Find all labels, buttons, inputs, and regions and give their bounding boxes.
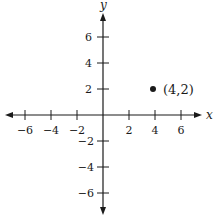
x-tick-label: −4 — [43, 124, 59, 137]
y-tick-label: 4 — [85, 57, 92, 70]
x-tick-label: 4 — [152, 124, 159, 137]
y-axis: y — [99, 0, 107, 215]
y-axis-down-arrow-icon — [100, 207, 106, 215]
y-tick-label: −4 — [78, 161, 94, 174]
x-axis: x — [5, 108, 213, 122]
point-dot-icon — [150, 86, 156, 92]
y-axis-up-arrow-icon — [100, 13, 106, 21]
x-tick-label: −6 — [17, 124, 33, 137]
y-axis-label: y — [99, 0, 107, 12]
y-tick-label: −6 — [78, 187, 94, 200]
x-tick-labels: −6 −4 −2 2 4 6 — [17, 124, 185, 137]
coordinate-plane: x y −6 −4 −2 2 4 6 6 4 2 −2 −4 — [0, 0, 214, 220]
x-axis-right-arrow-icon — [194, 112, 202, 118]
y-tick-label: 2 — [85, 83, 92, 96]
x-tick-label: 6 — [178, 124, 185, 137]
x-axis-label: x — [206, 108, 213, 122]
y-tick-label: −2 — [78, 135, 94, 148]
x-axis-left-arrow-icon — [5, 112, 13, 118]
plotted-point: (4,2) — [150, 82, 194, 97]
point-label: (4,2) — [163, 82, 194, 97]
x-tick-label: 2 — [126, 124, 133, 137]
y-tick-label: 6 — [85, 31, 92, 44]
